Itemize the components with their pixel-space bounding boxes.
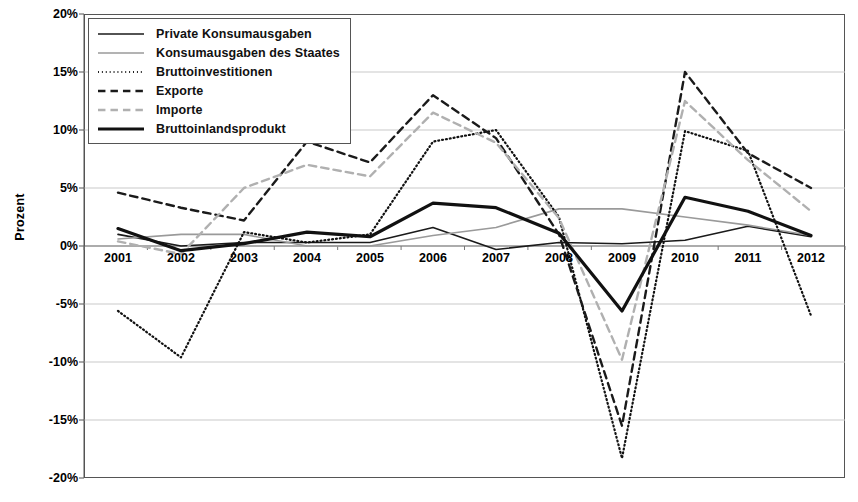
x-axis-tick: 2010 [671,251,699,265]
legend-label: Importe [156,103,203,117]
x-axis-tick: 2006 [419,251,447,265]
legend-label: Konsumausgaben des Staates [156,46,340,60]
legend-label: Private Konsumausgaben [156,27,312,41]
legend-item-2: Bruttoinvestitionen [95,62,340,81]
legend-item-1: Konsumausgaben des Staates [95,43,340,62]
legend-item-0: Private Konsumausgaben [95,24,340,43]
x-axis-tick: 2002 [167,251,195,265]
x-axis-tick: 2011 [734,251,761,265]
x-axis-tick: 2003 [230,251,258,265]
legend-swatch-icon [95,122,147,136]
chart-container: Prozent 20%15%10%5%0%-5%-10%-15%-20% 200… [0,0,858,502]
legend-label: Exporte [156,84,203,98]
legend-swatch-icon [95,65,147,79]
x-axis-tick: 2005 [356,251,384,265]
legend-label: Bruttoinlandsprodukt [156,122,286,136]
legend-item-3: Exporte [95,81,340,100]
legend-label: Bruttoinvestitionen [156,65,272,79]
x-axis-tick: 2007 [482,251,510,265]
x-axis-tick: 2009 [608,251,636,265]
legend-swatch-icon [95,103,147,117]
legend-swatch-icon [95,84,147,98]
legend-swatch-icon [95,46,147,60]
x-axis-tick: 2012 [797,251,825,265]
legend-swatch-icon [95,27,147,41]
x-axis-tick: 2008 [545,251,573,265]
x-axis-tick: 2004 [293,251,321,265]
legend-item-4: Importe [95,100,340,119]
x-axis-tick: 2001 [104,251,132,265]
chart-legend: Private KonsumausgabenKonsumausgaben des… [88,18,351,144]
legend-item-5: Bruttoinlandsprodukt [95,119,340,138]
